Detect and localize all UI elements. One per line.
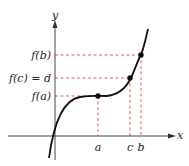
label-a: a: [95, 141, 102, 154]
point-b: [138, 52, 143, 57]
label-fa: f(a): [31, 90, 51, 103]
point-c: [127, 75, 132, 80]
label-fb: f(b): [30, 49, 51, 62]
label-fc: f(c) = d: [8, 72, 51, 85]
y-axis-label: y: [51, 9, 59, 22]
label-c: c: [127, 141, 133, 154]
label-b: b: [137, 141, 144, 154]
point-a: [95, 93, 100, 98]
ivt-diagram: y x f(b) f(c) = d f(a) a c b: [0, 0, 189, 166]
x-axis-label: x: [177, 129, 184, 142]
x-axis-arrow-icon: [168, 134, 176, 139]
